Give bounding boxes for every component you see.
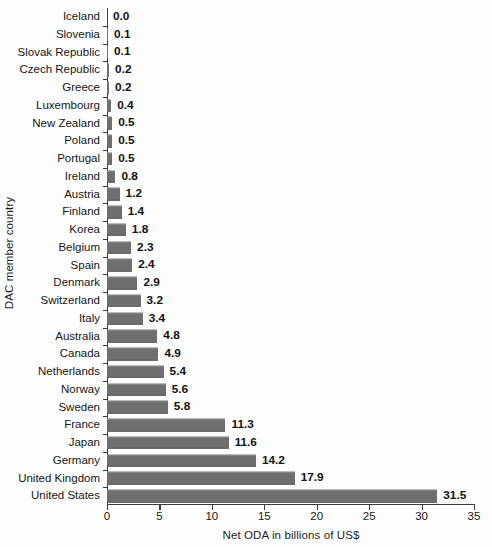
bar-value-label: 0.8: [121, 171, 137, 183]
bar: [107, 206, 122, 219]
bar-row: Spain2.4: [107, 257, 474, 275]
bar-row: Canada4.9: [107, 345, 474, 363]
bar: [107, 46, 108, 59]
bar-row: Korea1.8: [107, 221, 474, 239]
bar-value-label: 11.3: [231, 419, 253, 431]
bar-row: Poland0.5: [107, 132, 474, 150]
y-axis-title: DAC member country: [0, 0, 18, 505]
bar: [107, 330, 157, 343]
bar: [107, 419, 225, 432]
bar-row: Ireland0.8: [107, 168, 474, 186]
x-axis-tick-label: 10: [205, 511, 218, 523]
x-axis-title: Net ODA in billions of US$: [107, 529, 475, 541]
category-label: Canada: [60, 348, 100, 360]
bar-value-label: 0.4: [117, 100, 133, 112]
bar: [107, 99, 111, 112]
bar-row: Italy3.4: [107, 310, 474, 328]
category-label: Australia: [55, 331, 100, 343]
bar-value-label: 0.0: [113, 11, 129, 23]
bar: [107, 295, 141, 308]
category-label: Japan: [69, 437, 100, 449]
category-label: Italy: [79, 313, 100, 325]
bar-row: Slovenia0.1: [107, 26, 474, 44]
bar-value-label: 2.9: [143, 277, 159, 289]
bar-value-label: 5.6: [172, 384, 188, 396]
bar-value-label: 4.8: [163, 330, 179, 342]
bar: [107, 401, 168, 414]
bar-value-label: 0.2: [115, 82, 131, 94]
x-axis-tick-label: 5: [156, 511, 162, 523]
bar: [107, 224, 126, 237]
bar-row: Japan11.6: [107, 434, 474, 452]
bar-row: Sweden5.8: [107, 399, 474, 417]
category-label: United Kingdom: [18, 473, 100, 485]
bar: [107, 348, 158, 361]
bar: [107, 82, 109, 95]
bar: [107, 277, 137, 290]
bar-row: Switzerland3.2: [107, 292, 474, 310]
category-label: Switzerland: [41, 295, 100, 307]
bar: [107, 170, 115, 183]
category-label: Belgium: [58, 242, 100, 254]
bar-row: Slovak Republic0.1: [107, 44, 474, 62]
bar-value-label: 0.1: [114, 46, 130, 58]
bar-value-label: 3.2: [147, 295, 163, 307]
bar: [107, 437, 229, 450]
category-label: Greece: [62, 82, 100, 94]
bar-value-label: 4.9: [164, 348, 180, 360]
bar-value-label: 31.5: [443, 490, 466, 502]
y-axis-title-text: DAC member country: [3, 196, 15, 308]
bar-row: Austria1.2: [107, 186, 474, 204]
category-label: Slovenia: [56, 29, 100, 41]
bar-value-label: 5.4: [170, 366, 186, 378]
bar: [107, 153, 112, 166]
bar: [107, 241, 131, 254]
bar-row: Greece0.2: [107, 79, 474, 97]
category-label: France: [64, 419, 100, 431]
category-label: Netherlands: [38, 366, 100, 378]
category-label: Poland: [64, 135, 100, 147]
category-label: Austria: [64, 189, 100, 201]
bar-value-label: 5.8: [174, 401, 190, 413]
bar: [107, 28, 108, 41]
bar-value-label: 0.1: [114, 29, 130, 41]
x-axis-tick-label: 20: [310, 511, 323, 523]
bar-value-label: 0.5: [118, 153, 134, 165]
bar: [107, 64, 109, 77]
category-label: Sweden: [58, 402, 100, 414]
bar: [107, 135, 112, 148]
bar-value-label: 2.3: [137, 242, 153, 254]
category-label: Finland: [62, 206, 100, 218]
x-axis-tick-label: 25: [363, 511, 376, 523]
bar: [107, 188, 120, 201]
category-label: United States: [31, 490, 100, 502]
bar-row: Germany14.2: [107, 452, 474, 470]
bar-row: New Zealand0.5: [107, 115, 474, 133]
category-label: Korea: [69, 224, 100, 236]
x-axis-tick-label: 15: [258, 511, 271, 523]
bar: [107, 472, 295, 485]
bar-row: Denmark2.9: [107, 274, 474, 292]
bar-row: Norway5.6: [107, 381, 474, 399]
bar: [107, 259, 132, 272]
bar-value-label: 11.6: [235, 437, 257, 449]
category-label: Portugal: [57, 153, 100, 165]
category-label: Norway: [61, 384, 100, 396]
bar-value-label: 1.8: [132, 224, 148, 236]
category-label: Germany: [53, 455, 100, 467]
bar-value-label: 3.4: [149, 313, 165, 325]
bar-value-label: 0.5: [118, 117, 134, 129]
bar-row: Portugal0.5: [107, 150, 474, 168]
bar-row: Belgium2.3: [107, 239, 474, 257]
bar-row: Iceland0.0: [107, 8, 474, 26]
bar-row: Netherlands5.4: [107, 363, 474, 381]
bar: [107, 312, 143, 325]
x-axis-tick-label: 30: [415, 511, 428, 523]
bar-row: United Kingdom17.9: [107, 470, 474, 488]
category-label: Slovak Republic: [18, 47, 100, 59]
plot-area: Iceland0.0Slovenia0.1Slovak Republic0.1C…: [107, 8, 474, 505]
bar-value-label: 17.9: [301, 472, 324, 484]
category-label: Czech Republic: [19, 64, 100, 76]
bar-row: Czech Republic0.2: [107, 61, 474, 79]
bar: [107, 366, 164, 379]
